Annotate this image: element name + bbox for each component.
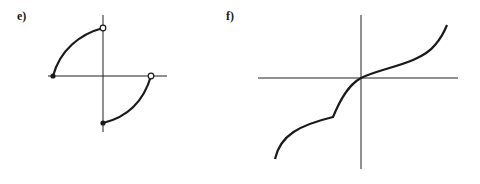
panel-e-filled-dot-left [50,73,55,78]
panel-e-filled-dot-bottom [100,120,105,125]
figure-canvas [0,0,480,184]
panel-e-open-dot-top [100,25,106,31]
panel-e-arc-lower-right [103,76,151,123]
panel-e-graph [48,15,167,132]
panel-e-open-dot-right [148,73,154,79]
panel-f-graph [258,15,458,169]
panel-e-arc-upper-left [53,28,103,76]
